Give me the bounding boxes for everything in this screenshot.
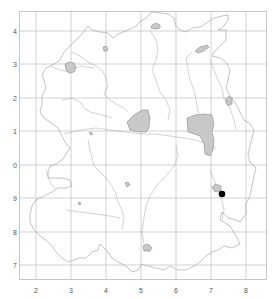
x-tick-label: 6 (174, 287, 178, 294)
shaded-areas (65, 23, 232, 251)
y-tick-label: 7 (13, 262, 17, 269)
area-north-small (103, 46, 108, 51)
x-tick-label: 3 (69, 287, 73, 294)
area-north-east (151, 23, 160, 29)
grid-lines (19, 11, 266, 279)
x-tick-label: 5 (139, 287, 143, 294)
y-tick-label: 8 (13, 229, 17, 236)
x-tick-label: 8 (244, 287, 248, 294)
x-tick-label: 7 (209, 287, 213, 294)
x-axis-labels: 2 3 4 5 6 7 8 (34, 287, 248, 294)
area-tiny-south-central (125, 182, 130, 187)
map-canvas: 4 3 2 1 0 9 8 7 2 3 4 5 6 7 8 (0, 0, 278, 299)
y-tick-label: 4 (13, 28, 17, 35)
area-south-small (143, 244, 152, 251)
y-tick-label: 9 (13, 195, 17, 202)
y-tick-label: 3 (13, 61, 17, 68)
x-tick-label: 4 (104, 287, 108, 294)
x-tick-label: 2 (34, 287, 38, 294)
area-southeast-small (212, 184, 221, 192)
region-boundary (30, 12, 256, 272)
y-axis-labels: 4 3 2 1 0 9 8 7 (13, 28, 17, 269)
y-tick-label: 0 (13, 162, 17, 169)
area-tiny-central-west (89, 132, 93, 135)
y-tick-label: 1 (13, 128, 17, 135)
y-tick-label: 2 (13, 95, 17, 102)
area-tiny-south-west (78, 202, 81, 205)
area-east-large (187, 114, 214, 156)
distribution-map: 4 3 2 1 0 9 8 7 2 3 4 5 6 7 8 (0, 0, 278, 299)
record-point-marker (219, 191, 226, 198)
area-central (127, 110, 150, 132)
area-east-lens (195, 45, 209, 53)
area-far-east-small (226, 96, 232, 106)
